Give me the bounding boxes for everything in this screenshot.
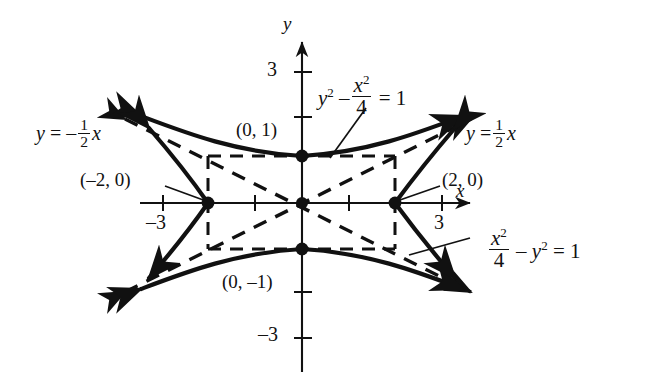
point-0-1 — [296, 150, 309, 163]
asymptote-right-label: y = 1 2 x — [466, 117, 516, 149]
asymptote-left-label: y = – 1 2 x — [36, 117, 101, 149]
asymptote-left-lhs: y — [36, 122, 45, 144]
point-origin — [296, 197, 308, 209]
equation-horizontal-fraction: x2 4 — [489, 228, 509, 271]
point-label-left: (–2, 0) — [80, 170, 131, 189]
asymptote-left-numerator: 1 — [78, 117, 90, 133]
asymptote-right-numerator: 1 — [493, 117, 505, 133]
asymptote-left-equals: = — [50, 122, 61, 144]
asymptote-left-sign: – — [66, 122, 76, 144]
equation-vertical-tail: = 1 — [379, 86, 407, 110]
asymptote-right-equals: = — [480, 122, 491, 144]
point-2-0 — [389, 197, 402, 210]
point-label-top: (0, 1) — [236, 120, 277, 139]
equation-horizontal-hyperbola: x2 4 – y2 = 1 — [487, 228, 581, 271]
leader-equation-horizontal — [409, 238, 470, 255]
point-label-bottom: (0, –1) — [222, 272, 273, 291]
asymptote-left-denominator: 2 — [78, 133, 90, 150]
equation-vertical-minus: – — [339, 86, 350, 110]
x-tick-label-3: 3 — [434, 212, 444, 232]
equation-horizontal-variable-exponent: 2 — [541, 238, 548, 253]
equation-vertical-lead: y — [318, 86, 327, 110]
equation-vertical-fraction: x2 4 — [352, 75, 372, 118]
point-label-right: (2, 0) — [442, 170, 483, 189]
equation-vertical-denominator: 4 — [352, 96, 372, 118]
equation-horizontal-tail: = 1 — [553, 239, 581, 263]
y-axis-label: y — [283, 14, 291, 33]
equation-horizontal-numerator: x2 — [489, 228, 509, 249]
asymptote-right-denominator: 2 — [493, 133, 505, 150]
equation-vertical-numerator: x2 — [352, 75, 372, 96]
hyperbola-figure: y x 3 –3 –3 3 y = – 1 2 x y = 1 2 x y2 –… — [0, 0, 649, 389]
y-tick-label-neg3: –3 — [258, 324, 278, 344]
y-tick-label-3: 3 — [267, 59, 277, 79]
asymptote-right-lhs: y — [466, 122, 475, 144]
equation-horizontal-denominator: 4 — [489, 249, 509, 271]
graph-canvas — [0, 0, 649, 389]
x-tick-label-neg3: –3 — [146, 212, 166, 232]
asymptote-right-variable: x — [507, 122, 516, 144]
asymptote-right-fraction: 1 2 — [493, 117, 505, 149]
equation-vertical-lead-exponent: 2 — [327, 85, 334, 100]
asymptote-left-fraction: 1 2 — [78, 117, 90, 149]
asymptote-left-variable: x — [92, 122, 101, 144]
equation-horizontal-minus: – — [516, 239, 527, 263]
equation-vertical-hyperbola: y2 – x2 4 = 1 — [318, 75, 406, 118]
point-neg2-0 — [202, 197, 215, 210]
point-0-neg1 — [296, 243, 309, 256]
equation-horizontal-variable: y — [532, 239, 541, 263]
